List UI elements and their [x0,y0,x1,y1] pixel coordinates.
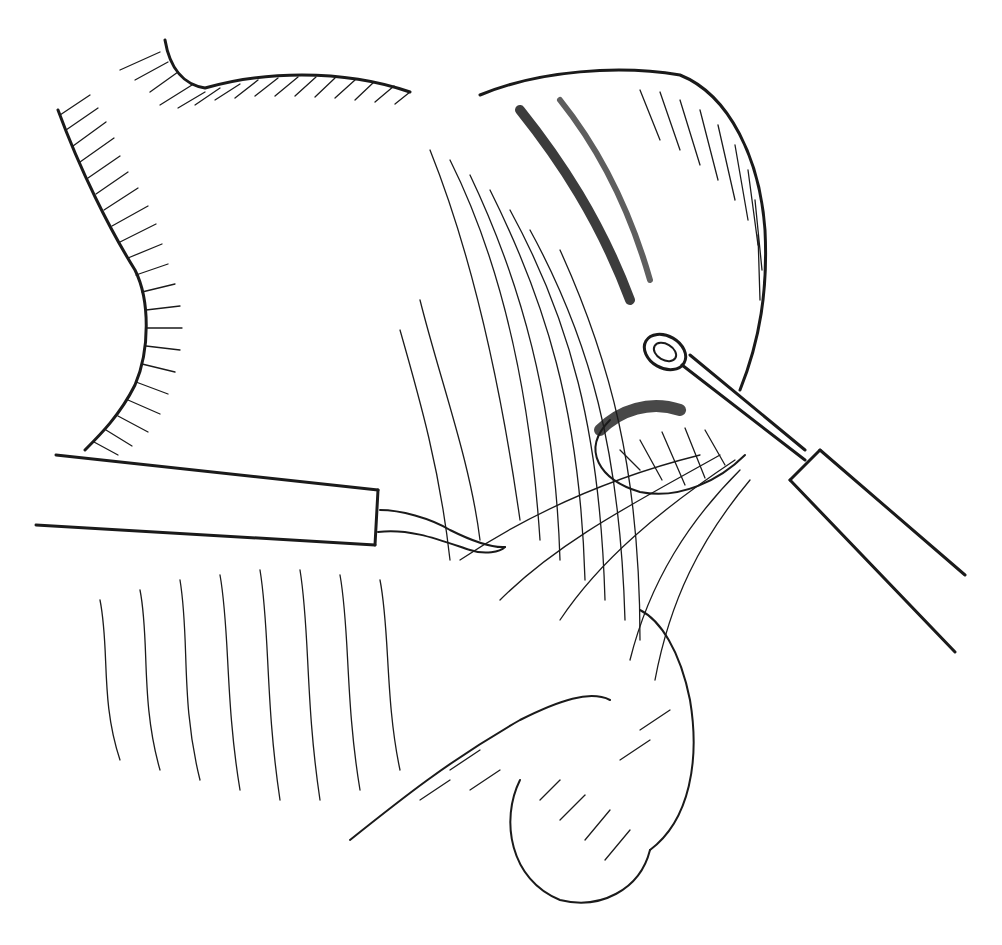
illustration-canvas [0,0,1002,945]
fanning-fibers [400,150,750,680]
lower-left-texture [100,570,400,800]
surgical-illustration [0,0,1002,945]
dark-tissue-loop [480,70,766,494]
scalpel [36,455,505,553]
upper-tissue-mass [58,40,410,455]
lower-bowel-loops [100,570,694,903]
